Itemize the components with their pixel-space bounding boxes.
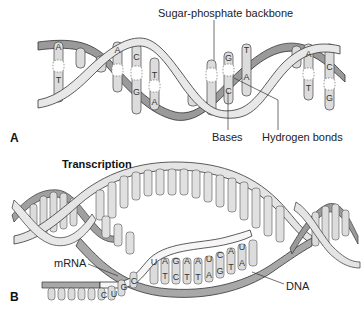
- svg-text:G: G: [225, 53, 232, 63]
- panel-a-helix: A T A C G T A G C T A A T C G: [38, 20, 345, 130]
- panel-letter-a: A: [10, 132, 19, 144]
- svg-text:C: C: [217, 250, 224, 260]
- svg-text:C: C: [101, 290, 108, 300]
- svg-text:A: A: [195, 256, 201, 266]
- svg-text:C: C: [225, 86, 232, 96]
- svg-text:G: G: [172, 256, 179, 266]
- label-mrna: mRNA: [54, 258, 86, 269]
- svg-text:G: G: [326, 93, 333, 103]
- svg-text:T: T: [306, 83, 312, 93]
- svg-text:A: A: [228, 246, 234, 256]
- svg-text:A: A: [55, 42, 61, 52]
- svg-text:G: G: [133, 87, 140, 97]
- label-hydrogen-bonds: Hydrogen bonds: [262, 132, 343, 143]
- svg-text:A: A: [305, 49, 311, 59]
- svg-text:T: T: [184, 272, 190, 282]
- label-bases: Bases: [212, 132, 243, 143]
- svg-text:T: T: [195, 272, 201, 282]
- mrna-tail: [42, 282, 100, 288]
- svg-text:A: A: [151, 97, 157, 107]
- svg-text:T: T: [244, 45, 250, 55]
- svg-text:G: G: [216, 266, 223, 276]
- svg-text:T: T: [162, 271, 168, 281]
- svg-text:U: U: [239, 242, 246, 252]
- svg-text:T: T: [152, 70, 158, 80]
- panel-b-title: Transcription: [62, 159, 132, 170]
- svg-text:A: A: [162, 256, 168, 266]
- svg-text:T: T: [56, 75, 62, 85]
- svg-text:U: U: [111, 289, 118, 299]
- svg-text:A: A: [184, 256, 190, 266]
- svg-text:U: U: [206, 254, 213, 264]
- svg-text:C: C: [131, 276, 138, 286]
- label-sugar-phosphate-backbone: Sugar-phosphate backbone: [158, 8, 293, 19]
- svg-text:C: C: [326, 62, 333, 72]
- svg-text:C: C: [133, 52, 140, 62]
- svg-text:T: T: [228, 262, 234, 272]
- svg-text:A: A: [239, 258, 245, 268]
- svg-text:U: U: [151, 257, 158, 267]
- svg-text:C: C: [173, 272, 180, 282]
- svg-text:A: A: [243, 72, 249, 82]
- svg-text:A: A: [114, 45, 120, 55]
- svg-text:G: G: [120, 282, 127, 292]
- panel-letter-b: B: [10, 291, 19, 303]
- label-dna: DNA: [286, 281, 309, 292]
- svg-text:A: A: [206, 270, 212, 280]
